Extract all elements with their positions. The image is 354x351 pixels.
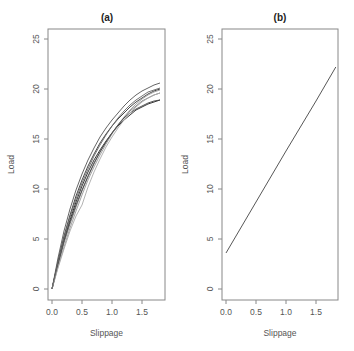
plot-frame [48,29,165,300]
chart-title: (a) [101,12,113,23]
x-tick-label: 0.0 [46,307,58,317]
y-tick-label: 25 [205,34,215,44]
x-tick-label: 1.5 [136,307,148,317]
series-line-curve-5 [52,90,160,289]
y-axis-label: Load [6,155,16,174]
y-tick-label: 20 [205,84,215,94]
y-tick-label: 10 [205,184,215,194]
y-tick-label: 5 [205,236,215,241]
x-tick-label: 0.5 [250,307,262,317]
x-axis-label: Slippage [90,328,123,338]
x-tick-label: 1.0 [106,307,118,317]
y-tick-label: 10 [31,184,41,194]
x-tick-label: 1.5 [310,307,322,317]
x-tick-label: 0.5 [76,307,88,317]
y-tick-label: 15 [31,134,41,144]
figure: (a)0.00.51.01.50510152025SlippageLoad (b… [0,0,354,351]
chart-title: (b) [274,12,287,23]
panel-a: (a)0.00.51.01.50510152025SlippageLoad [6,12,165,338]
series-line-curve-3 [52,83,160,289]
x-tick-label: 0.0 [220,307,232,317]
series-line-curve-2 [52,89,160,289]
series-line-curve-8 [52,88,160,289]
y-tick-label: 25 [31,34,41,44]
y-axis-label: Load [180,155,190,174]
y-tick-label: 5 [31,236,41,241]
series-line-fitted-line [226,67,336,253]
series-line-curve-4 [52,93,160,289]
x-axis-label: Slippage [263,328,296,338]
x-tick-label: 1.0 [280,307,292,317]
y-tick-label: 15 [205,134,215,144]
y-tick-label: 0 [31,286,41,291]
y-tick-label: 20 [31,84,41,94]
series-line-curve-7 [52,93,160,289]
plot-frame [222,29,338,300]
panel-b: (b)0.00.51.01.50510152025SlippageLoad [180,12,338,338]
y-tick-label: 0 [205,286,215,291]
